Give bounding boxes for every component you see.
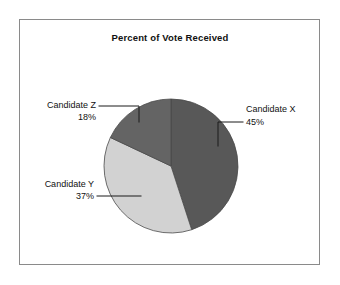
label-candidate-y-value: 37% [76, 191, 94, 201]
label-candidate-y-name: Candidate Y [45, 179, 94, 189]
label-candidate-x-value: 45% [246, 117, 264, 127]
label-candidate-z-value: 18% [78, 112, 96, 122]
label-candidate-x-name: Candidate X [246, 104, 296, 114]
pie-slices [104, 99, 238, 233]
chart-title: Percent of Vote Received [112, 32, 229, 43]
pie-chart-figure: Percent of Vote Received Candidate Z 18%… [0, 0, 340, 285]
label-candidate-z-name: Candidate Z [47, 100, 97, 110]
